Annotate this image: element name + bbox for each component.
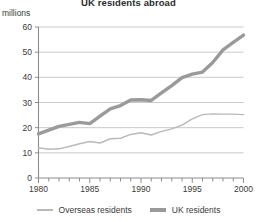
- y-axis-tick-label: 50: [6, 48, 32, 56]
- y-axis-tick-label: 20: [6, 124, 32, 132]
- series-line-uk-residents: [39, 35, 244, 134]
- y-axis-tick-label: 0: [6, 174, 32, 182]
- x-axis-tick-label: 1980: [22, 185, 56, 194]
- y-axis-tick-label: 40: [6, 73, 32, 81]
- plot-svg: [0, 0, 257, 200]
- y-axis-tick-label: 10: [6, 149, 32, 157]
- y-axis-tick-label: 30: [6, 99, 32, 107]
- chart-container: UK residents abroad millions 01020304050…: [0, 0, 257, 222]
- y-axis-tick-label: 60: [6, 23, 32, 31]
- legend-item-overseas-residents: Overseas residents: [37, 205, 132, 215]
- legend-line-swatch-uk-icon: [150, 208, 166, 211]
- legend-line-swatch-overseas-icon: [37, 209, 53, 210]
- x-axis-tick-label: 1985: [73, 185, 107, 194]
- series-line-overseas-residents: [39, 114, 244, 149]
- chart-legend: Overseas residents UK residents: [0, 198, 257, 222]
- legend-item-uk-residents: UK residents: [150, 205, 221, 215]
- legend-label-overseas-residents: Overseas residents: [59, 205, 132, 215]
- plot-area: [0, 0, 257, 200]
- x-axis-tick-label: 1990: [124, 185, 158, 194]
- x-axis-tick-label: 1995: [175, 185, 209, 194]
- legend-label-uk-residents: UK residents: [172, 205, 221, 215]
- x-axis-tick-label: 2000: [227, 185, 258, 194]
